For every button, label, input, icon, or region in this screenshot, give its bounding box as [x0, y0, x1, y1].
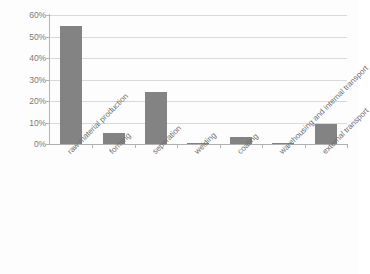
- bar: [60, 26, 82, 144]
- bar: [145, 92, 167, 144]
- x-axis-tick-mark: [177, 144, 178, 148]
- bar-slot: [177, 15, 219, 144]
- y-axis-tick-mark: [46, 123, 50, 124]
- bar: [187, 143, 209, 145]
- bar-slot: [50, 15, 92, 144]
- y-axis-tick-labels: 0%10%20%30%40%50%60%: [0, 15, 46, 144]
- x-axis-tick-mark: [92, 144, 93, 148]
- bar: [272, 143, 294, 145]
- x-axis-tick-mark: [347, 144, 348, 148]
- bar-slot: [262, 15, 304, 144]
- bar: [230, 137, 252, 144]
- y-axis-tick-label: 30%: [4, 75, 46, 84]
- y-axis-tick-label: 60%: [4, 11, 46, 20]
- x-axis-tick-mark: [220, 144, 221, 148]
- y-axis-tick-label: 10%: [4, 118, 46, 127]
- x-axis-tick-mark: [135, 144, 136, 148]
- bar-slot: [92, 15, 134, 144]
- bar-slot: [135, 15, 177, 144]
- y-axis-tick-label: 40%: [4, 54, 46, 63]
- x-axis-tick-mark: [305, 144, 306, 148]
- x-axis-tick-mark: [262, 144, 263, 148]
- y-axis-tick-label: 50%: [4, 32, 46, 41]
- y-axis-tick-mark: [46, 15, 50, 16]
- bar: [103, 133, 125, 144]
- bar: [315, 124, 337, 144]
- axis-baseline: [50, 144, 347, 145]
- y-axis-tick-mark: [46, 58, 50, 59]
- y-axis-tick-label: 20%: [4, 97, 46, 106]
- y-axis-tick-label: 0%: [4, 140, 46, 149]
- y-axis-tick-mark: [46, 80, 50, 81]
- y-axis-tick-mark: [46, 144, 50, 145]
- bar-slot: [305, 15, 347, 144]
- y-axis-tick-mark: [46, 37, 50, 38]
- plot-area: [50, 15, 347, 144]
- y-axis-tick-mark: [46, 101, 50, 102]
- bar-slot: [220, 15, 262, 144]
